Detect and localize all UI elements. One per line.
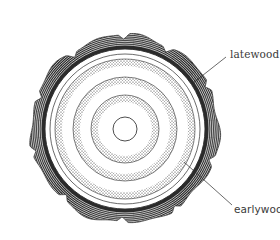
earlywood-label: earlywooe bbox=[234, 203, 280, 215]
pith bbox=[113, 117, 137, 141]
latewood-label: latewood bbox=[230, 48, 279, 60]
